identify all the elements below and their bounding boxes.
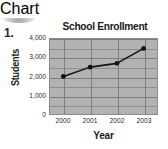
data-point-marker <box>141 46 146 51</box>
y-axis-tick-label: 1,000 <box>23 92 46 99</box>
y-axis-tick-label: 2,000 <box>23 73 46 80</box>
data-point-marker <box>114 61 119 66</box>
y-axis-tick-labels: 4,0003,0002,0001,0000 <box>22 38 46 115</box>
x-axis-tick-label: 2003 <box>137 117 152 124</box>
y-axis-tick-label: 4,000 <box>23 34 46 41</box>
plot-area <box>49 38 158 115</box>
data-series-line <box>50 39 157 114</box>
x-axis-label: Year <box>49 130 158 141</box>
y-axis-tick-label: 3,000 <box>23 53 46 60</box>
x-axis-tick-labels: 2000200120022003 <box>49 117 158 129</box>
series-polyline <box>63 48 143 76</box>
x-axis-tick-label: 2002 <box>110 117 125 124</box>
y-axis-label: Students <box>10 42 21 92</box>
scan-smudge-artifact <box>2 18 36 23</box>
chart-figure: 1. School Enrollment 4,0003,0002,0001,00… <box>0 18 168 149</box>
y-axis-tick-label: 0 <box>23 111 46 118</box>
x-axis-tick-label: 2001 <box>82 117 97 124</box>
data-point-marker <box>88 65 93 70</box>
chart-title: School Enrollment <box>50 20 160 32</box>
data-point-marker <box>61 74 66 79</box>
problem-number: 1. <box>4 26 14 40</box>
x-axis-tick-label: 2000 <box>55 117 70 124</box>
